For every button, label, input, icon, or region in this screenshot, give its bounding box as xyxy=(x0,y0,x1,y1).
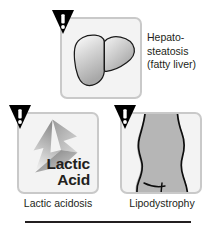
label-hepatosteatosis: Hepato- steatosis (fatty liver) xyxy=(147,31,213,72)
caption-lipodystrophy: Lipodystrophy xyxy=(112,197,212,210)
lactic-line-1: Lactic xyxy=(46,156,90,172)
warning-triangle-icon-lactic-acidosis xyxy=(7,103,33,131)
lactic-acid-overlay-text: Lactic Acid xyxy=(46,156,90,187)
lactic-line-2: Acid xyxy=(46,172,90,188)
label-line-3: (fatty liver) xyxy=(147,58,213,72)
side-effects-figure: Hepato- steatosis (fatty liver) xyxy=(0,0,213,229)
warning-triangle-icon-hepatosteatosis xyxy=(50,8,76,36)
label-line-2: steatosis xyxy=(147,45,213,59)
label-line-1: Hepato- xyxy=(147,31,213,45)
bottom-divider-rule xyxy=(25,221,191,223)
caption-lactic-acidosis: Lactic acidosis xyxy=(8,197,108,210)
warning-triangle-icon-lipodystrophy xyxy=(112,103,138,131)
